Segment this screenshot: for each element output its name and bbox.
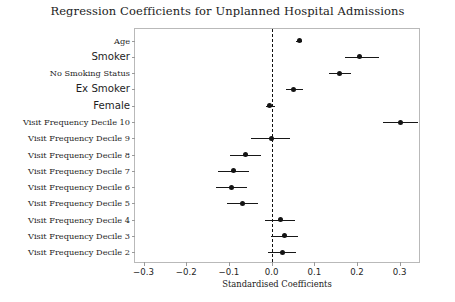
x-axis-tick xyxy=(357,262,358,266)
coefficient-point-marker xyxy=(291,87,296,92)
y-axis-tick xyxy=(132,220,135,221)
x-axis-tick-label: 0.2 xyxy=(350,267,364,277)
y-axis-label: No Smoking Status xyxy=(50,69,130,77)
y-axis-label: Visit Frequency Decile 2 xyxy=(28,248,130,256)
coefficient-point-marker xyxy=(337,71,342,76)
x-axis-tick xyxy=(400,262,401,266)
y-axis-tick xyxy=(132,57,135,58)
y-axis-tick xyxy=(132,138,135,139)
confidence-interval-bar xyxy=(345,57,379,58)
x-axis-tick xyxy=(186,262,187,266)
coefficient-point-marker xyxy=(398,120,403,125)
coefficient-point-marker xyxy=(229,185,234,190)
y-axis-label: Visit Frequency Decile 6 xyxy=(28,183,130,191)
x-axis-tick-label: −0.2 xyxy=(176,267,197,277)
coefficient-point-marker xyxy=(282,233,287,238)
y-axis-tick xyxy=(132,236,135,237)
x-axis-tick xyxy=(272,262,273,266)
y-axis-tick xyxy=(132,41,135,42)
y-axis-label: Smoker xyxy=(91,52,130,62)
y-axis-label: Visit Frequency Decile 4 xyxy=(28,215,130,223)
y-axis-label: Visit Frequency Decile 9 xyxy=(28,134,130,142)
coefficient-point-marker xyxy=(269,136,274,141)
y-axis-tick xyxy=(132,106,135,107)
y-axis-tick xyxy=(132,73,135,74)
x-axis-tick xyxy=(314,262,315,266)
coefficient-point-marker xyxy=(243,152,248,157)
y-axis-label: Visit Frequency Decile 3 xyxy=(28,232,130,240)
y-axis-label: Ex Smoker xyxy=(76,84,130,94)
x-axis-tick xyxy=(144,262,145,266)
y-axis-label: Visit Frequency Decile 8 xyxy=(28,150,130,158)
coefficient-point-marker xyxy=(278,217,283,222)
x-axis-tick-label: 0.1 xyxy=(307,267,321,277)
coefficient-point-marker xyxy=(280,250,285,255)
y-axis-tick xyxy=(132,155,135,156)
y-axis-tick xyxy=(132,203,135,204)
y-axis-tick xyxy=(132,187,135,188)
y-axis-tick xyxy=(132,89,135,90)
y-axis-label: Visit Frequency Decile 7 xyxy=(28,167,130,175)
chart-title: Regression Coefficients for Unplanned Ho… xyxy=(0,4,455,18)
y-axis-tick xyxy=(132,171,135,172)
y-axis-label: Age xyxy=(114,37,130,45)
x-axis-tick-label: 0.0 xyxy=(265,267,279,277)
x-axis-tick-label: −0.3 xyxy=(133,267,154,277)
y-axis-tick xyxy=(132,252,135,253)
x-axis-tick-label: 0.3 xyxy=(393,267,407,277)
coefficient-point-marker xyxy=(240,201,245,206)
coefficient-point-marker xyxy=(297,38,302,43)
y-axis-tick xyxy=(132,122,135,123)
plot-area: AgeSmokerNo Smoking StatusEx SmokerFemal… xyxy=(134,28,420,263)
y-axis-label: Visit Frequency Decile 10 xyxy=(23,118,130,126)
zero-reference-line xyxy=(272,29,273,262)
x-axis-tick-label: −0.1 xyxy=(218,267,239,277)
coefficient-point-marker xyxy=(357,54,362,59)
x-axis-title: Standardised Coefficients xyxy=(135,279,419,289)
y-axis-label: Female xyxy=(93,101,130,111)
y-axis-label: Visit Frequency Decile 5 xyxy=(28,199,130,207)
x-axis-tick xyxy=(229,262,230,266)
regression-coefficient-forest-plot: Regression Coefficients for Unplanned Ho… xyxy=(0,0,455,302)
coefficient-point-marker xyxy=(231,168,236,173)
